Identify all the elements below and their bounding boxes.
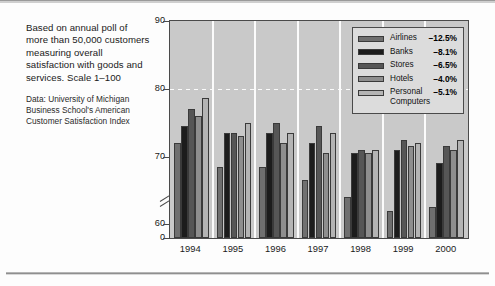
legend-swatch-icon (358, 90, 384, 96)
y-tick-mark (163, 238, 169, 239)
legend-change-value: –8.1% (430, 47, 457, 57)
x-tick-label-1998: 1998 (350, 243, 371, 254)
bar-banks-1994 (181, 126, 188, 238)
bar-airlines-1994 (174, 143, 181, 238)
legend-label: Banks (390, 47, 430, 57)
bar-hotels-1994 (195, 116, 202, 238)
bottom-divider (6, 272, 489, 275)
legend-row: Hotels–4.0% (358, 74, 457, 85)
group-separator (297, 21, 299, 238)
annotation-block: Based on annual poll of more than 50,000… (26, 22, 152, 128)
bar-banks-1998 (351, 153, 358, 238)
bar-stores-1998 (358, 150, 365, 238)
bar-banks-1996 (266, 133, 273, 238)
bar-hotels-1995 (238, 136, 245, 238)
y-tick-label-70: 70 (155, 151, 165, 161)
bar-stores-2000 (443, 146, 450, 238)
bar-airlines-1995 (217, 167, 224, 238)
x-tick-label-1994: 1994 (180, 243, 201, 254)
legend-label: Stores (390, 60, 430, 70)
annotation-lead-text: Based on annual poll of more than 50,000… (26, 22, 152, 84)
x-axis-labels: 1994199519961997199819992000 (169, 243, 469, 259)
bar-hotels-1999 (408, 146, 415, 238)
legend-change-value: –6.5% (430, 60, 457, 70)
bar-banks-1997 (309, 143, 316, 238)
x-tick-label-1995: 1995 (222, 243, 243, 254)
y-tick-mark (163, 89, 169, 90)
x-tick-label-1997: 1997 (308, 243, 329, 254)
annotation-source-text: Data: University of Michigan Business Sc… (26, 94, 152, 128)
legend-row: Banks–8.1% (358, 47, 457, 58)
bar-personal-computers-2000 (457, 140, 464, 238)
bar-hotels-1998 (365, 153, 372, 238)
y-tick-mark (163, 224, 169, 225)
legend-label: Airlines (390, 33, 426, 43)
legend-change-value: –5.1% (430, 87, 457, 97)
legend-change-value: –4.0% (430, 74, 457, 84)
bar-hotels-1997 (323, 153, 330, 238)
legend-swatch-icon (358, 36, 384, 42)
group-separator (212, 21, 214, 238)
bar-personal-computers-1999 (415, 143, 422, 238)
bar-personal-computers-1998 (372, 150, 379, 238)
legend-row: Stores–6.5% (358, 60, 457, 71)
y-tick-label-0: 0 (160, 232, 165, 242)
legend-label: Personal Computers (390, 87, 430, 108)
legend-row: Personal Computers–5.1% (358, 87, 457, 108)
bar-stores-1999 (401, 140, 408, 238)
bar-stores-1995 (231, 133, 238, 238)
y-axis-labels: 060708090 (141, 0, 165, 286)
group-separator (254, 21, 256, 238)
y-tick-mark (163, 21, 169, 22)
chart-screenshot: Based on annual poll of more than 50,000… (0, 0, 495, 286)
bar-personal-computers-1997 (330, 133, 337, 238)
chart-legend: Airlines–12.5%Banks–8.1%Stores–6.5%Hotel… (352, 27, 464, 114)
legend-row: Airlines–12.5% (358, 33, 457, 44)
legend-label: Hotels (390, 74, 430, 84)
bar-personal-computers-1994 (202, 98, 209, 238)
x-tick-label-1999: 1999 (393, 243, 414, 254)
legend-swatch-icon (358, 49, 384, 55)
y-tick-label-90: 90 (155, 15, 165, 25)
bar-stores-1996 (273, 123, 280, 238)
bar-stores-1994 (188, 109, 195, 238)
x-tick-label-2000: 2000 (435, 243, 456, 254)
top-divider (0, 0, 495, 3)
bar-airlines-1997 (302, 180, 309, 238)
legend-swatch-icon (358, 76, 384, 82)
bar-airlines-1996 (259, 167, 266, 238)
bar-hotels-2000 (450, 150, 457, 238)
y-tick-label-60: 60 (155, 218, 165, 228)
y-tick-mark (163, 157, 169, 158)
bar-banks-1999 (394, 150, 401, 238)
legend-swatch-icon (358, 63, 384, 69)
group-separator (339, 21, 341, 238)
legend-change-value: –12.5% (426, 33, 457, 43)
bar-personal-computers-1995 (245, 123, 252, 238)
bar-airlines-1998 (344, 197, 351, 238)
bar-banks-1995 (224, 133, 231, 238)
bar-personal-computers-1996 (287, 133, 294, 238)
bar-airlines-1999 (387, 211, 394, 238)
bar-airlines-2000 (429, 207, 436, 238)
x-tick-label-1996: 1996 (265, 243, 286, 254)
bar-hotels-1996 (280, 143, 287, 238)
bar-banks-2000 (436, 163, 443, 238)
bar-stores-1997 (316, 126, 323, 238)
y-tick-label-80: 80 (155, 83, 165, 93)
